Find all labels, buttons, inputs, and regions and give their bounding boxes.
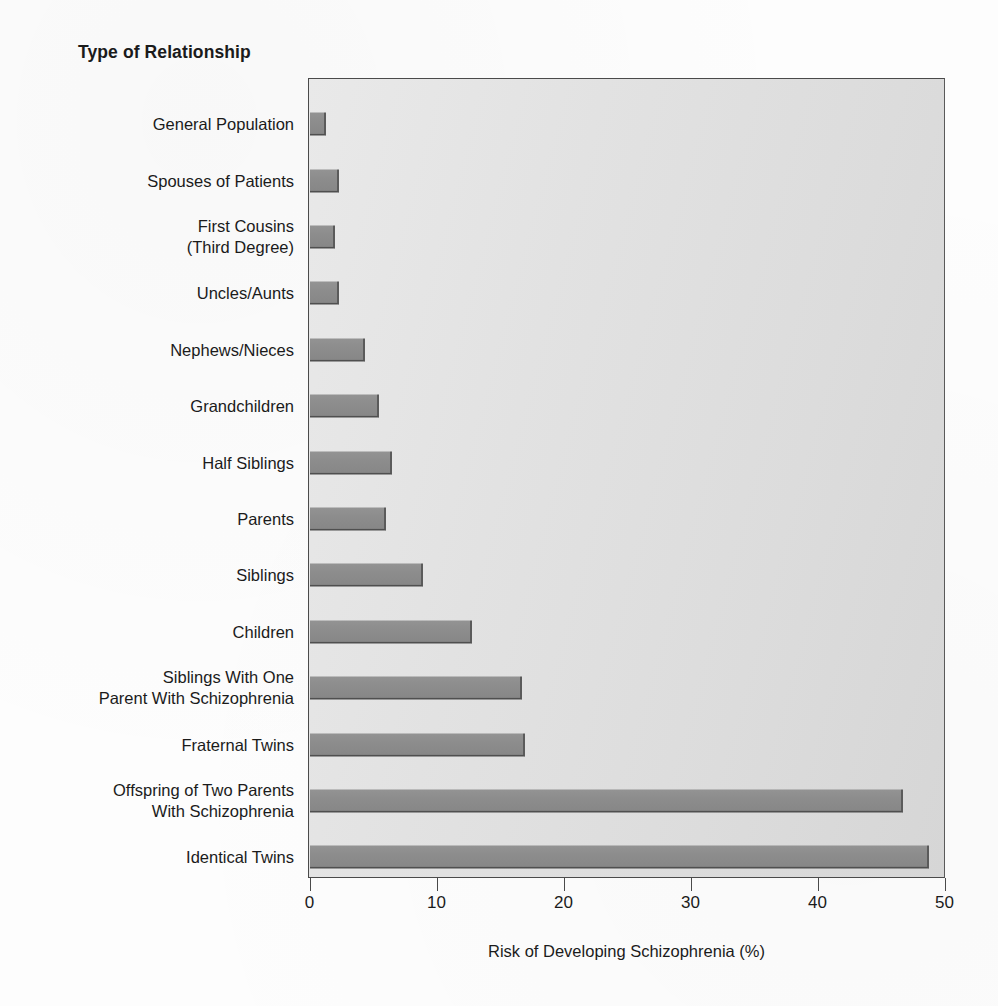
bar-track bbox=[310, 620, 473, 643]
bar-row: Fraternal Twins bbox=[0, 716, 998, 772]
x-axis-tick bbox=[945, 878, 947, 891]
bar-row: Children bbox=[0, 604, 998, 660]
bar bbox=[310, 225, 335, 248]
bar-track bbox=[310, 395, 380, 418]
bar-track bbox=[310, 677, 522, 700]
bar-row: Siblings bbox=[0, 547, 998, 603]
x-axis-tick bbox=[564, 878, 566, 891]
x-axis-tick-label: 10 bbox=[427, 893, 446, 913]
category-label: Spouses of Patients bbox=[8, 170, 308, 191]
bar-track bbox=[310, 451, 393, 474]
category-label: Half Siblings bbox=[8, 452, 308, 473]
bar-track bbox=[310, 338, 366, 361]
bar bbox=[310, 507, 386, 530]
bar-track bbox=[310, 789, 903, 812]
category-label: Siblings bbox=[8, 565, 308, 586]
bar-row: Grandchildren bbox=[0, 378, 998, 434]
bar-row: Nephews/Nieces bbox=[0, 322, 998, 378]
category-label: Fraternal Twins bbox=[8, 734, 308, 755]
bar-track bbox=[310, 169, 339, 192]
x-axis-title: Risk of Developing Schizophrenia (%) bbox=[308, 942, 945, 961]
bar bbox=[310, 733, 526, 756]
bar-track bbox=[310, 225, 335, 248]
category-label: Offspring of Two Parents With Schizophre… bbox=[8, 780, 308, 822]
x-axis-tick bbox=[691, 878, 693, 891]
category-label: Parents bbox=[8, 508, 308, 529]
chart-title: Type of Relationship bbox=[78, 42, 251, 63]
category-label: General Population bbox=[8, 114, 308, 135]
x-axis-tick bbox=[310, 878, 312, 891]
bar-track bbox=[310, 846, 930, 869]
category-label: First Cousins (Third Degree) bbox=[8, 216, 308, 258]
bar bbox=[310, 169, 339, 192]
bar-track bbox=[310, 282, 339, 305]
category-label: Children bbox=[8, 621, 308, 642]
bar-row: Offspring of Two Parents With Schizophre… bbox=[0, 773, 998, 829]
bar-row: Parents bbox=[0, 491, 998, 547]
bar bbox=[310, 395, 380, 418]
bar bbox=[310, 451, 393, 474]
category-label: Siblings With One Parent With Schizophre… bbox=[8, 667, 308, 709]
bar-row: General Population bbox=[0, 96, 998, 152]
bar bbox=[310, 338, 366, 361]
bar-row: Half Siblings bbox=[0, 434, 998, 490]
category-label: Grandchildren bbox=[8, 396, 308, 417]
bar-row: Spouses of Patients bbox=[0, 152, 998, 208]
x-axis-ticks bbox=[308, 878, 945, 891]
bar-track bbox=[310, 507, 386, 530]
x-axis-tick-label: 30 bbox=[681, 893, 700, 913]
x-axis-tick-label: 0 bbox=[305, 893, 314, 913]
x-axis-tick-label: 40 bbox=[808, 893, 827, 913]
x-axis-tick-label: 50 bbox=[935, 893, 954, 913]
x-axis-tick-label: 20 bbox=[554, 893, 573, 913]
bar-track bbox=[310, 113, 327, 136]
bar bbox=[310, 564, 423, 587]
bar-row: Siblings With One Parent With Schizophre… bbox=[0, 660, 998, 716]
bar bbox=[310, 789, 903, 812]
x-axis-tick bbox=[818, 878, 820, 891]
bar bbox=[310, 113, 327, 136]
bar-track bbox=[310, 733, 526, 756]
x-axis-tick-labels: 01020304050 bbox=[308, 893, 945, 919]
bar-row: Uncles/Aunts bbox=[0, 265, 998, 321]
bar bbox=[310, 620, 473, 643]
category-label: Uncles/Aunts bbox=[8, 283, 308, 304]
bar-track bbox=[310, 564, 423, 587]
category-label: Nephews/Nieces bbox=[8, 339, 308, 360]
bar-row: First Cousins (Third Degree) bbox=[0, 209, 998, 265]
category-label: Identical Twins bbox=[8, 847, 308, 868]
bar bbox=[310, 282, 339, 305]
bar bbox=[310, 846, 930, 869]
x-axis-tick bbox=[437, 878, 439, 891]
bar bbox=[310, 677, 522, 700]
